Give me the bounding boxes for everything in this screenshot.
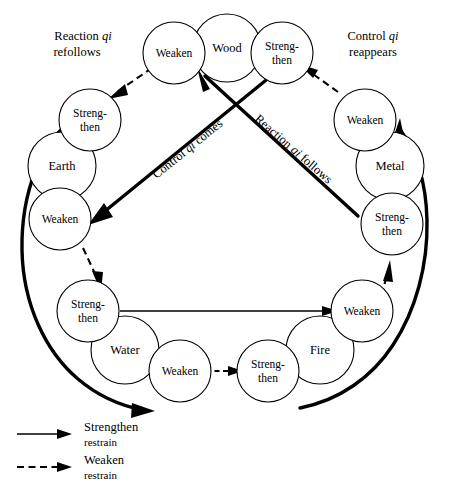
label-wood-strengthen-line2: then bbox=[272, 54, 292, 66]
label-control-qi-reappears: Control qi bbox=[347, 29, 399, 43]
arrowhead-fire-to-metal bbox=[383, 260, 393, 282]
label-fire-element: Fire bbox=[310, 343, 331, 357]
label-earth-strengthen-line1: Streng- bbox=[73, 107, 107, 120]
label-metal-strengthen-line2: then bbox=[382, 225, 402, 237]
legend-dashed-arrowhead bbox=[57, 462, 72, 472]
label-water-weaken: Weaken bbox=[162, 365, 199, 377]
label-earth-element: Earth bbox=[48, 159, 76, 173]
label-fire-weaken: Weaken bbox=[344, 305, 381, 317]
label-metal-strengthen-line1: Streng- bbox=[375, 211, 409, 224]
label-metal-weaken: Weaken bbox=[347, 114, 384, 126]
five-phases-diagram: Wood Weaken Streng- then Earth Streng- t… bbox=[0, 0, 452, 504]
label-fire-strengthen-line1: Streng- bbox=[251, 358, 285, 371]
label-reaction-refollows-qi: qi bbox=[102, 29, 112, 43]
label-reaction-follows-after: follows bbox=[295, 149, 335, 186]
label-reaction-follows-before: Reaction bbox=[252, 112, 297, 154]
legend-solid-label-line1: Strengthen bbox=[84, 420, 139, 434]
label-control-qi-reappears-line2: reappears bbox=[349, 45, 397, 59]
label-reaction-qi-refollows-line2: refollows bbox=[53, 45, 100, 59]
label-earth-strengthen-line2: then bbox=[80, 121, 100, 133]
diagram-canvas: Wood Weaken Streng- then Earth Streng- t… bbox=[0, 0, 452, 504]
label-fire-strengthen-line2: then bbox=[258, 372, 278, 384]
label-earth-weaken: Weaken bbox=[42, 213, 79, 225]
label-reaction-qi-refollows: Reaction qi bbox=[54, 29, 112, 43]
label-water-element: Water bbox=[110, 343, 140, 357]
label-control-reappears-word: Control bbox=[347, 29, 388, 43]
label-control-reappears-qi: qi bbox=[389, 29, 399, 43]
label-water-strengthen-line2: then bbox=[78, 312, 98, 324]
label-control-comes-after: comes bbox=[189, 116, 225, 149]
legend-solid-label-line2: restrain bbox=[84, 436, 117, 448]
arrowhead-arc-left bbox=[131, 403, 155, 418]
label-control-comes-before: Control bbox=[150, 145, 191, 182]
label-wood-weaken: Weaken bbox=[156, 47, 193, 59]
legend-dashed-label-line2: restrain bbox=[84, 469, 117, 481]
label-water-strengthen-line1: Streng- bbox=[71, 298, 105, 311]
legend-solid-arrowhead bbox=[57, 429, 72, 439]
label-metal-element: Metal bbox=[375, 159, 405, 173]
label-reaction-qi-follows: Reaction qi follows bbox=[252, 112, 335, 187]
legend-dashed-label-line1: Weaken bbox=[84, 453, 125, 467]
label-control-qi-comes: Control qi comes bbox=[150, 116, 226, 181]
label-wood-strengthen-line1: Streng- bbox=[265, 40, 299, 53]
legend: Strengthen restrain Weaken restrain bbox=[17, 420, 139, 481]
label-reaction-refollows-word: Reaction bbox=[54, 29, 102, 43]
label-wood-element: Wood bbox=[212, 41, 242, 55]
